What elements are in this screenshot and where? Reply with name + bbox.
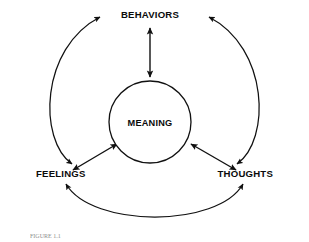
thoughts-behaviors-arc: [209, 17, 259, 164]
node-label-meaning: MEANING: [128, 118, 173, 128]
figure-container: BEHAVIORS FEELINGS THOUGHTS MEANING FIGU…: [0, 0, 309, 242]
figure-caption: FIGURE 1.1: [30, 233, 290, 239]
node-label-feelings: FEELINGS: [36, 168, 86, 179]
feelings-behaviors-arc: [50, 17, 100, 164]
meaning-thoughts-arrow: [191, 144, 236, 170]
meaning-feelings-arrow: [73, 144, 117, 170]
node-label-thoughts: THOUGHTS: [218, 168, 274, 179]
feelings-thoughts-arc: [66, 184, 243, 217]
node-label-behaviors: BEHAVIORS: [121, 9, 180, 20]
diagram-canvas: BEHAVIORS FEELINGS THOUGHTS MEANING: [0, 0, 309, 242]
